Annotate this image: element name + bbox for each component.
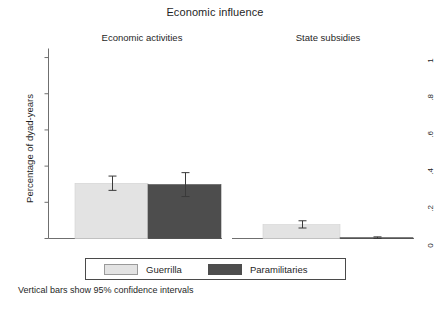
bar-guerrilla-panel1 bbox=[75, 183, 148, 238]
legend-label-guerrilla: Guerrilla bbox=[146, 264, 182, 275]
legend: Guerrilla Paramilitaries bbox=[85, 258, 346, 280]
bar-paramilitaries-panel1 bbox=[148, 185, 221, 239]
chart-footnote: Vertical bars show 95% confidence interv… bbox=[18, 285, 194, 295]
legend-item-guerrilla: Guerrilla bbox=[104, 264, 182, 275]
bars bbox=[75, 183, 413, 238]
legend-item-paramilitaries: Paramilitaries bbox=[208, 264, 308, 275]
legend-swatch-paramilitaries bbox=[208, 264, 242, 275]
bar-guerrilla-panel2 bbox=[263, 225, 340, 239]
legend-label-paramilitaries: Paramilitaries bbox=[250, 264, 308, 275]
legend-swatch-guerrilla bbox=[104, 264, 138, 275]
